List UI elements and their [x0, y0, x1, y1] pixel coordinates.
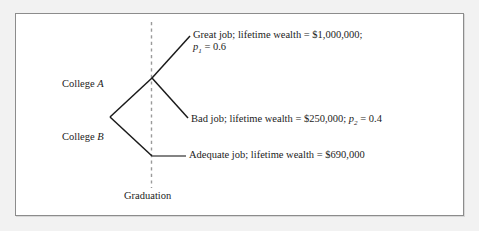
- outcome-probability-great-job: p1 = 0.6: [193, 41, 226, 56]
- node-label-college-a: College A: [62, 78, 104, 91]
- diagram-page: College A College B Great job; lifetime …: [0, 0, 479, 231]
- bad-job-text: Bad job; lifetime wealth = $250,000;: [191, 113, 349, 124]
- graduation-axis-label: Graduation: [124, 190, 171, 203]
- outcome-label-great-job: Great job; lifetime wealth = $1,000,000;: [193, 29, 363, 42]
- outcome-label-adequate-job: Adequate job; lifetime wealth = $690,000: [189, 149, 365, 162]
- probability-value-p2: = 0.4: [358, 113, 382, 124]
- outcome-label-bad-job: Bad job; lifetime wealth = $250,000; p2 …: [191, 113, 382, 128]
- node-label-college-b: College B: [62, 131, 104, 144]
- probability-value-p1: = 0.6: [202, 41, 226, 52]
